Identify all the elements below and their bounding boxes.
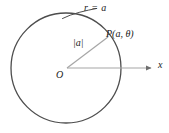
point-p-label: P(a, θ) (106, 29, 134, 39)
origin-label: O (56, 70, 63, 80)
circle-equation-label: r = a (84, 3, 107, 13)
x-axis-label: x (158, 60, 162, 70)
radius-magnitude-label: |a| (73, 38, 84, 48)
figure-canvas (0, 0, 169, 133)
polar-circle-figure: r = a P(a, θ) |a| O x (0, 0, 169, 133)
